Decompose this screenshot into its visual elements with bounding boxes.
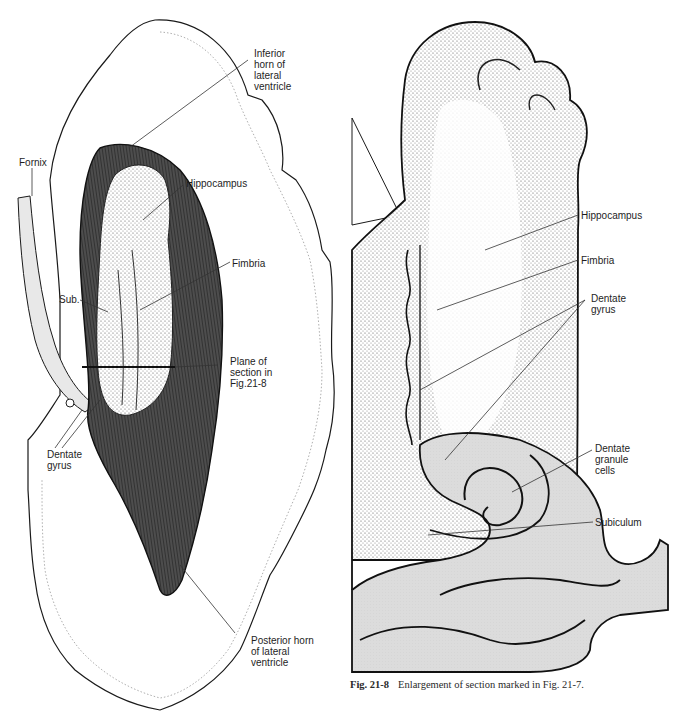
label-sub: Sub. bbox=[59, 294, 80, 305]
label-hippocampus-left: Hippocampus bbox=[186, 178, 247, 189]
label-dentate-granule-cells: Dentate granule cells bbox=[595, 443, 630, 476]
anatomy-illustrations bbox=[0, 0, 683, 715]
figure-caption: Fig. 21-8Enlargement of section marked i… bbox=[350, 679, 584, 690]
label-fornix: Fornix bbox=[19, 157, 47, 168]
label-hippocampus-right: Hippocampus bbox=[581, 210, 642, 221]
label-dentate-gyrus-left: Dentate gyrus bbox=[47, 449, 82, 471]
caption-figure-number: Fig. 21-8 bbox=[350, 679, 389, 690]
label-posterior-horn: Posterior horn of lateral ventricle bbox=[251, 635, 314, 668]
label-fimbria-right: Fimbria bbox=[581, 255, 614, 266]
label-dentate-gyrus-right: Dentate gyrus bbox=[591, 293, 626, 315]
textbook-page: Inferior horn of lateral ventricle Forni… bbox=[0, 0, 683, 715]
label-fimbria-left: Fimbria bbox=[232, 258, 265, 269]
caption-text: Enlargement of section marked in Fig. 21… bbox=[398, 679, 584, 690]
label-subiculum: Subiculum bbox=[595, 517, 642, 528]
label-plane-of-section: Plane of section in Fig.21-8 bbox=[230, 356, 272, 389]
hippocampus-left bbox=[97, 165, 173, 415]
label-inferior-horn: Inferior horn of lateral ventricle bbox=[254, 48, 291, 92]
